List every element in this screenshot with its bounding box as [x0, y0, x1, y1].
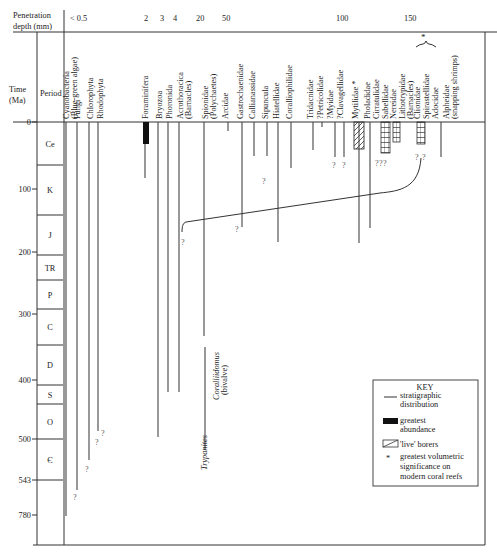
taxon-label: Alpheidae(snapping shrimps) — [442, 55, 459, 119]
svg-text:Hiatellidae: Hiatellidae — [272, 82, 281, 119]
question-mark: ? — [101, 429, 105, 438]
bracket-star-icon: * — [421, 32, 426, 42]
svg-text:Adocidae: Adocidae — [431, 87, 440, 119]
period-Ce: Ce — [45, 140, 55, 149]
taxon-label: Callianassidae — [248, 71, 257, 119]
taxon-label: Cirratulidae — [372, 79, 381, 119]
live-borer-boxes — [354, 122, 425, 153]
question-mark: ? — [73, 493, 77, 502]
svg-text:Sipuncula: Sipuncula — [261, 85, 270, 119]
period-J: J — [48, 231, 52, 240]
time-tick-label: 500 — [19, 435, 31, 444]
question-mark: ? — [383, 159, 387, 168]
svg-text:Coralliophilidae: Coralliophilidae — [285, 65, 294, 119]
svg-text:significance on: significance on — [400, 462, 451, 471]
svg-text:greatest: greatest — [400, 416, 426, 425]
penetration-units-label: depth (mm) — [13, 22, 52, 31]
svg-text:Fungi: Fungi — [73, 99, 82, 119]
svg-text:Gastrochaenidae: Gastrochaenidae — [236, 63, 245, 119]
taxon-label: Hiatellidae — [272, 82, 281, 119]
taxon-label: Mytilidae * — [351, 81, 360, 119]
taxon-label: Adocidae — [431, 87, 440, 119]
depth-tick-label: 2 — [144, 14, 148, 23]
coralliidomus-sub-label: (bivalve) — [220, 365, 229, 395]
taxon-label: Rhodophyta — [96, 78, 105, 119]
period-C: C — [47, 323, 53, 332]
taxon-label: Arcidae — [221, 92, 230, 119]
time-tick-label: 100 — [19, 185, 31, 194]
borer-stratigraphic-range-diagram: Penetration depth (mm) < 0.5234205010015… — [0, 0, 497, 558]
period-TR: TR — [45, 264, 56, 273]
svg-text:Callianassidae: Callianassidae — [248, 71, 257, 119]
bracket — [416, 41, 436, 47]
trypanites-label: Trypanites — [200, 435, 209, 470]
svg-text:'live' borers: 'live' borers — [400, 440, 438, 449]
svg-text:Phoronida: Phoronida — [165, 85, 174, 119]
foraminifera-abundance-bar — [143, 122, 149, 144]
svg-text:Tridacnidae: Tridacnidae — [306, 79, 315, 119]
svg-text:?Petricolidae: ?Petricolidae — [316, 75, 325, 119]
svg-text:modern coral reefs: modern coral reefs — [400, 472, 462, 481]
svg-text:distribution: distribution — [400, 400, 439, 409]
depth-tick-label: < 0.5 — [70, 14, 87, 23]
time-tick-label: 780 — [19, 511, 31, 520]
svg-text:abundance: abundance — [400, 425, 436, 434]
depth-tick-label: 150 — [404, 14, 416, 23]
taxon-label: Chlorophyta — [86, 77, 95, 119]
svg-text:Foraminifera: Foraminifera — [141, 75, 150, 119]
svg-text:Rhodophyta: Rhodophyta — [96, 78, 105, 119]
time-label: Time — [9, 85, 27, 94]
taxon-label: Nereidae — [389, 89, 398, 119]
question-mark: ? — [235, 225, 239, 234]
time-tick-label: 400 — [19, 376, 31, 385]
question-mark: ? — [85, 465, 89, 474]
taxon-label: Gastrochaenidae — [236, 63, 245, 119]
taxon-label: ?Petricolidae — [316, 75, 325, 119]
svg-text:Mytilidae *: Mytilidae * — [351, 81, 360, 119]
taxon-label: Pholadidae — [363, 82, 372, 119]
taxon-label: Fungi — [73, 99, 82, 119]
question-mark: ? — [415, 153, 419, 162]
svg-text:(Barnacles): (Barnacles) — [184, 81, 193, 119]
period-label: Period — [40, 89, 63, 98]
key-legend: KEY stratigraphic distribution greatest … — [373, 380, 478, 486]
time-units-label: (Ma) — [9, 96, 26, 105]
taxon-label: Spirastellidae — [422, 74, 431, 119]
question-mark: ? — [332, 161, 336, 170]
penetration-label: Penetration — [13, 11, 52, 20]
svg-text:Cirratulidae: Cirratulidae — [372, 79, 381, 119]
period-Є: Є — [47, 456, 53, 465]
taxon-label: Tridacnidae — [306, 79, 315, 119]
taxon-label: Coralliophilidae — [285, 65, 294, 119]
depth-tick-label: 100 — [336, 14, 348, 23]
taxa-labels: Cyanobacteria(Blue-green algae)FungiChlo… — [62, 55, 459, 119]
period-S: S — [48, 391, 53, 400]
taxon-label: Spionidae(Polychaetes) — [201, 74, 218, 119]
time-tick-label: 0 — [27, 118, 31, 127]
svg-text:stratigraphic: stratigraphic — [400, 391, 442, 400]
key-black-bar-icon — [383, 418, 398, 424]
question-mark: ? — [422, 153, 426, 162]
taxon-label: Sipuncula — [261, 85, 270, 119]
taxon-label: ?Myidae — [326, 90, 335, 119]
taxon-label: ?Clavagellidae — [336, 69, 345, 119]
time-tick-label: 543 — [19, 476, 31, 485]
depth-tick-labels: < 0.52342050100150 — [70, 14, 416, 23]
time-axis: 0100200300400500543780 — [19, 118, 37, 520]
svg-text:?Myidae: ?Myidae — [326, 90, 335, 119]
time-tick-label: 200 — [19, 248, 31, 257]
svg-text:Spirastellidae: Spirastellidae — [422, 74, 431, 119]
taxon-label: Foraminifera — [141, 75, 150, 119]
depth-tick-label: 20 — [196, 14, 204, 23]
period-O: O — [47, 418, 53, 427]
question-mark: ? — [181, 238, 185, 247]
question-mark: ? — [342, 161, 346, 170]
svg-text:?Clavagellidae: ?Clavagellidae — [336, 69, 345, 119]
key-asterisk-icon: * — [386, 454, 390, 463]
svg-text:Pholadidae: Pholadidae — [363, 82, 372, 119]
period-column: CeKJTRPCDSOЄ — [37, 140, 63, 481]
svg-text:Arcidae: Arcidae — [221, 92, 230, 119]
taxon-label: Clionidae — [413, 86, 422, 119]
svg-text:Chlorophyta: Chlorophyta — [86, 77, 95, 119]
taxon-label: Phoronida — [165, 85, 174, 119]
